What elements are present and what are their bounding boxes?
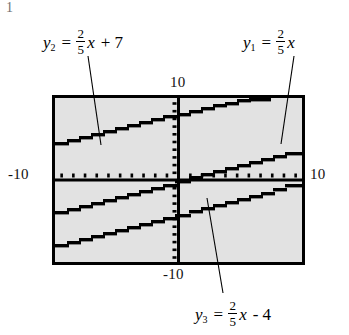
axis-label-y-min: -10 — [163, 266, 184, 283]
plot-canvas — [55, 98, 302, 262]
eq-y3-variable: y3 — [195, 305, 209, 325]
axis-label-x-min: -10 — [8, 166, 29, 183]
axis-label-y-max: 10 — [170, 74, 185, 91]
equation-label-y1: y1 = 2 5 x — [243, 28, 301, 58]
eq-y2-constant: + 7 — [101, 33, 123, 53]
eq-y1-variable: y1 — [243, 33, 257, 53]
equation-label-y2: y2 = 2 5 x + 7 — [43, 28, 123, 58]
eq-y3-equals: = — [214, 305, 224, 325]
eq-y3-x: x — [239, 305, 247, 325]
stray-scan-mark: 1 — [6, 0, 13, 16]
eq-y2-variable: y2 — [43, 33, 57, 53]
axis-label-x-max: 10 — [310, 166, 325, 183]
equation-label-y3: y3 = 2 5 x - 4 — [195, 300, 271, 330]
figure-root: 1 — [0, 0, 349, 335]
eq-y3-fraction: 2 5 — [228, 299, 237, 329]
eq-y2-x: x — [87, 33, 95, 53]
eq-y1-x: x — [287, 33, 295, 53]
calculator-screen — [52, 95, 305, 265]
eq-y2-equals: = — [62, 33, 72, 53]
eq-y1-fraction: 2 5 — [276, 27, 285, 57]
eq-y3-constant: - 4 — [253, 305, 271, 325]
eq-y1-equals: = — [262, 33, 272, 53]
eq-y2-fraction: 2 5 — [76, 27, 85, 57]
